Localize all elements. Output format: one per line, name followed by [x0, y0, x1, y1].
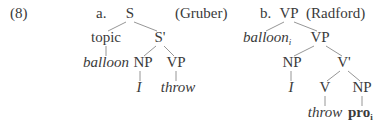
tree-b-node-vp: VP — [310, 29, 329, 45]
tree-b: b. VP (Radford) ballooni VP NP V' I V NP… — [243, 5, 373, 122]
tree-b-balloon-subscript: i — [289, 37, 292, 47]
tree-a-node-vp: VP — [166, 54, 185, 70]
tree-a-word-throw: throw — [161, 79, 195, 95]
tree-a-node-topic: topic — [91, 29, 121, 45]
tree-b-word-balloon: ballooni — [243, 29, 292, 47]
tree-a-node-s: S — [126, 5, 134, 21]
tree-b-label: b. — [260, 5, 271, 21]
tree-a-source: (Gruber) — [175, 5, 227, 22]
tree-a-word-i: I — [136, 79, 143, 95]
tree-a-node-sbar: S' — [154, 29, 165, 45]
tree-b-node-obj-np: NP — [352, 79, 371, 95]
tree-b-source: (Radford) — [306, 5, 365, 22]
tree-b-word-i: I — [288, 79, 295, 95]
syntax-tree-figure: (8) a. S (Gruber) topic S' balloon NP VP… — [0, 0, 380, 125]
tree-b-pro-subscript: i — [370, 112, 373, 122]
tree-a-word-balloon: balloon — [83, 54, 129, 70]
tree-b-node-np: NP — [282, 54, 301, 70]
tree-b-word-pro: proi — [348, 104, 373, 122]
tree-b-node-v: V — [320, 79, 331, 95]
tree-a-node-np: NP — [133, 54, 152, 70]
example-number: (8) — [10, 5, 28, 22]
tree-b-node-vbar: V' — [337, 54, 351, 70]
tree-b-word-throw: throw — [308, 104, 342, 120]
tree-b-node-vp-root: VP — [279, 5, 298, 21]
tree-a: a. S (Gruber) topic S' balloon NP VP I t… — [83, 5, 227, 95]
tree-a-label: a. — [96, 5, 106, 21]
